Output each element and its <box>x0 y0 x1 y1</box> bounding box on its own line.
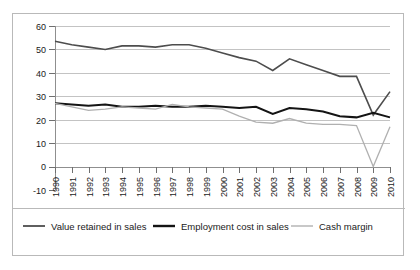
x-tick-label: 2004 <box>286 177 296 197</box>
series-line <box>55 103 390 117</box>
y-tick-label: 0 <box>41 162 46 172</box>
plot-area-wrapper: 6050403020100-10199019911992199319941995… <box>13 14 405 257</box>
x-tick-label: 2003 <box>269 177 279 197</box>
chart-legend: Value retained in salesEmployment cost i… <box>23 221 373 232</box>
legend-label[interactable]: Employment cost in sales <box>181 221 289 232</box>
x-tick-label: 1990 <box>51 177 61 197</box>
x-tick-label: 2010 <box>386 177 396 197</box>
series-line <box>55 103 390 166</box>
y-tick-label: 30 <box>36 92 46 102</box>
y-tick-label: 50 <box>36 45 46 55</box>
legend-label[interactable]: Value retained in sales <box>51 221 147 232</box>
chart-figure: 6050403020100-10199019911992199319941995… <box>0 0 420 270</box>
y-tick-label: 40 <box>36 69 46 79</box>
series-group <box>55 41 390 166</box>
x-tick-label: 1993 <box>101 177 111 197</box>
line-chart: 6050403020100-10199019911992199319941995… <box>13 14 405 257</box>
y-tick-label: 10 <box>36 139 46 149</box>
x-tick-label: 2006 <box>319 177 329 197</box>
x-tick-label: 2002 <box>252 177 262 197</box>
x-tick-label: 2007 <box>336 177 346 197</box>
x-tick-label: 1995 <box>135 177 145 197</box>
x-tick-label: 2009 <box>369 177 379 197</box>
x-tick-label: 2005 <box>302 177 312 197</box>
x-tick-label: 2001 <box>235 177 245 197</box>
x-tick-label: 1991 <box>68 177 78 197</box>
x-tick-label: 1998 <box>185 177 195 197</box>
y-tick-label: 60 <box>36 22 46 32</box>
legend-label[interactable]: Cash margin <box>319 221 373 232</box>
y-tick-label: 20 <box>36 116 46 126</box>
x-tick-label: 2008 <box>353 177 363 197</box>
chart-frame: 6050403020100-10199019911992199319941995… <box>12 13 404 256</box>
x-axis-ticks: 1990199119921993199419951996199719981999… <box>51 167 396 197</box>
x-tick-label: 1994 <box>118 177 128 197</box>
y-tick-label: -10 <box>33 186 46 196</box>
x-tick-label: 1999 <box>202 177 212 197</box>
x-tick-label: 1992 <box>85 177 95 197</box>
x-tick-label: 2000 <box>219 177 229 197</box>
x-tick-label: 1997 <box>168 177 178 197</box>
x-tick-label: 1996 <box>152 177 162 197</box>
